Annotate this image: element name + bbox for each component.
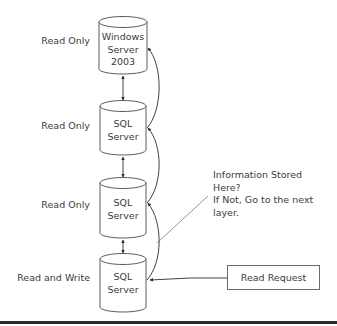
fallthrough-arrow-2-to-1 bbox=[147, 48, 159, 128]
server-label-3: SQL Server bbox=[100, 197, 146, 222]
note-line: layer. bbox=[213, 207, 313, 220]
note-line: Information Stored bbox=[213, 169, 313, 182]
bottom-divider bbox=[0, 321, 337, 324]
role-label-layer-1: Read Only bbox=[0, 35, 90, 46]
server-label-1: Windows Server 2003 bbox=[100, 31, 146, 69]
read-request-arrow bbox=[150, 278, 227, 280]
server-label-line: Server bbox=[100, 210, 146, 223]
server-label-line: Windows bbox=[100, 31, 146, 44]
read-request-label: Read Request bbox=[241, 272, 306, 283]
role-label-layer-2: Read Only bbox=[0, 120, 90, 131]
server-label-line: SQL bbox=[100, 271, 146, 284]
server-label-line: Server bbox=[100, 131, 146, 144]
note-callout-line bbox=[157, 196, 208, 243]
server-label-line: Server bbox=[100, 284, 146, 297]
server-label-2: SQL Server bbox=[100, 118, 146, 143]
role-label-layer-3: Read Only bbox=[0, 199, 90, 210]
server-label-line: 2003 bbox=[100, 56, 146, 69]
note-line: If Not, Go to the next bbox=[213, 194, 313, 207]
read-request-box: Read Request bbox=[227, 265, 320, 290]
server-label-line: SQL bbox=[100, 118, 146, 131]
server-label-line: Server bbox=[100, 44, 146, 57]
server-label-4: SQL Server bbox=[100, 271, 146, 296]
role-label-layer-4: Read and Write bbox=[0, 272, 90, 283]
server-label-line: SQL bbox=[100, 197, 146, 210]
fallthrough-note: Information Stored Here? If Not, Go to t… bbox=[213, 169, 313, 219]
fallthrough-arrow-4-to-3 bbox=[147, 203, 159, 280]
fallthrough-arrow-3-to-2 bbox=[147, 128, 159, 203]
note-line: Here? bbox=[213, 182, 313, 195]
